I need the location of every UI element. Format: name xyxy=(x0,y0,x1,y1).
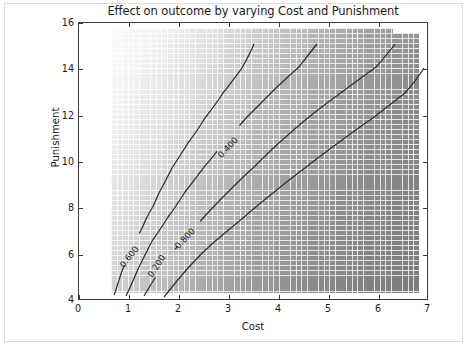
ytick-right-14 xyxy=(423,69,427,70)
contour-label-0800: 0.800 xyxy=(173,226,197,251)
ytick-14 xyxy=(79,69,83,70)
contour-label-0400: 0.400 xyxy=(216,135,240,160)
ytick-right-6 xyxy=(423,255,427,256)
xtick-1 xyxy=(129,295,130,299)
contour-line-0200 xyxy=(164,68,424,297)
contour-line-0400 xyxy=(144,44,395,296)
yticklabel-14: 14 xyxy=(50,63,74,74)
xticklabel-4: 4 xyxy=(266,303,290,314)
matplotlib-figure: Effect on outcome by varying Cost and Pu… xyxy=(0,0,468,346)
yticklabel-8: 8 xyxy=(50,202,74,213)
contour-line-0800 xyxy=(114,44,254,295)
xtick-top-1 xyxy=(129,23,130,27)
ytick-right-10 xyxy=(423,162,427,163)
ytick-10 xyxy=(79,162,83,163)
ytick-right-8 xyxy=(423,208,427,209)
ytick-right-12 xyxy=(423,116,427,117)
contour-label-0200: 0.200 xyxy=(146,253,168,279)
xtick-5 xyxy=(329,295,330,299)
xtick-top-6 xyxy=(379,23,380,27)
xticklabel-7: 7 xyxy=(415,303,439,314)
xtick-top-2 xyxy=(179,23,180,27)
xtick-top-5 xyxy=(329,23,330,27)
xticklabel-6: 6 xyxy=(366,303,390,314)
contour-label-0600: 0.600 xyxy=(118,244,141,270)
yticklabel-4: 4 xyxy=(50,294,74,305)
y-axis-label: Punishment xyxy=(50,78,61,198)
plot-axes: 0.800 0.600 0.400 0.200 xyxy=(78,22,428,300)
ytick-16 xyxy=(79,23,83,24)
contour-overlay: 0.800 0.600 0.400 0.200 xyxy=(79,23,428,300)
xticklabel-1: 1 xyxy=(116,303,140,314)
xtick-top-3 xyxy=(229,23,230,27)
x-axis-label: Cost xyxy=(78,321,428,332)
xtick-4 xyxy=(279,295,280,299)
ytick-12 xyxy=(79,116,83,117)
ytick-8 xyxy=(79,208,83,209)
xtick-0 xyxy=(79,295,80,299)
ytick-6 xyxy=(79,255,83,256)
xtick-top-4 xyxy=(279,23,280,27)
yticklabel-16: 16 xyxy=(50,17,74,28)
xticklabel-3: 3 xyxy=(216,303,240,314)
xtick-6 xyxy=(379,295,380,299)
xticklabel-5: 5 xyxy=(316,303,340,314)
xticklabel-2: 2 xyxy=(166,303,190,314)
page-title: Effect on outcome by varying Cost and Pu… xyxy=(78,4,428,18)
xtick-2 xyxy=(179,295,180,299)
yticklabel-6: 6 xyxy=(50,249,74,260)
xtick-3 xyxy=(229,295,230,299)
